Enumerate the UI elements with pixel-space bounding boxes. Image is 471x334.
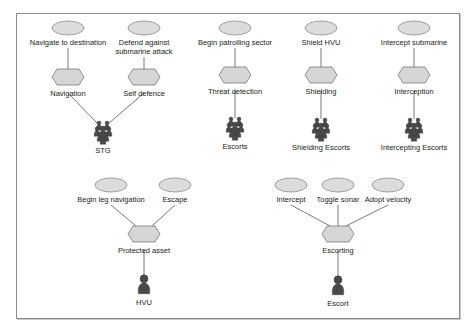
role-hexagon-icon[interactable]	[219, 67, 251, 83]
goal-label: Intercept	[276, 195, 305, 204]
goal-label: Begin patrolling sector	[198, 38, 272, 47]
goal-ellipse-icon[interactable]	[372, 178, 404, 192]
actor-label: Shielding Escorts	[292, 143, 350, 152]
goal-label: Navigate to destination	[30, 38, 106, 47]
role-hexagon-icon[interactable]	[305, 67, 337, 83]
edge-g10-r7	[346, 205, 388, 226]
actor-group-icon[interactable]	[94, 121, 112, 144]
role-hexagon-icon[interactable]	[322, 226, 354, 242]
edge-g7-r6	[152, 205, 175, 226]
goal-ellipse-icon[interactable]	[128, 21, 160, 35]
actor-group-icon[interactable]	[405, 118, 423, 141]
edge-g6-r6	[111, 205, 136, 226]
goal-label: Escape	[162, 195, 187, 204]
role-label: Interception	[394, 87, 433, 96]
goal-ellipse-icon[interactable]	[322, 178, 354, 192]
role-hexagon-icon[interactable]	[398, 67, 430, 83]
goal-ellipse-icon[interactable]	[159, 178, 191, 192]
goal-label: Adopt velocity	[365, 195, 412, 204]
actor-label: Escort	[327, 299, 348, 308]
actor-group-icon[interactable]	[226, 117, 244, 140]
role-hexagon-icon[interactable]	[128, 69, 160, 85]
goal-ellipse-icon[interactable]	[305, 21, 337, 35]
role-hexagon-icon[interactable]	[52, 69, 84, 85]
role-label: Self defence	[123, 89, 165, 98]
goal-label: Defend against submarine attack	[115, 38, 172, 56]
actor-person-icon[interactable]	[332, 276, 344, 295]
role-label: Escorting	[322, 246, 353, 255]
actor-group-icon[interactable]	[312, 118, 330, 141]
goal-label: Shield HVU	[302, 38, 341, 47]
role-label: Threat detection	[208, 87, 262, 96]
role-hexagon-icon[interactable]	[128, 226, 160, 242]
role-label: Shielding	[306, 87, 337, 96]
actor-label: HVU	[136, 298, 152, 307]
role-label: Navigation	[50, 89, 85, 98]
goal-label: Toggle sonar	[317, 195, 360, 204]
actor-label: STG	[95, 146, 110, 155]
goal-ellipse-icon[interactable]	[52, 21, 84, 35]
goal-ellipse-icon[interactable]	[219, 21, 251, 35]
goal-label: Intercept submarine	[381, 38, 447, 47]
actor-person-icon[interactable]	[138, 275, 150, 294]
actor-label: Intercepting Escorts	[381, 143, 447, 152]
edge-g8-r7	[291, 205, 330, 226]
diagram-canvas	[0, 0, 471, 334]
goal-ellipse-icon[interactable]	[398, 21, 430, 35]
goal-ellipse-icon[interactable]	[275, 178, 307, 192]
role-label: Protected asset	[118, 246, 170, 255]
goal-label: Begin leg navigation	[77, 195, 145, 204]
goal-ellipse-icon[interactable]	[95, 178, 127, 192]
actor-label: Escorts	[222, 142, 247, 151]
